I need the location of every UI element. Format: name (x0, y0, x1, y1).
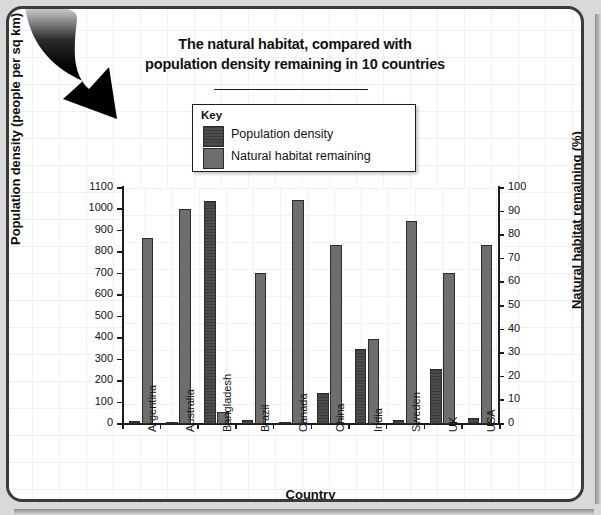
y-axis-left-tick-label: 1000 (73, 201, 113, 213)
x-axis-tick (235, 424, 237, 429)
chart-card: The natural habitat, compared with popul… (6, 6, 584, 502)
x-axis-category-label: Australia (184, 389, 196, 432)
y-axis-left-tick-label: 200 (73, 373, 113, 385)
x-axis-title: Country (122, 487, 499, 502)
x-axis-tick (273, 424, 275, 429)
bar-population-density (317, 393, 329, 424)
y-axis-left-tick (117, 380, 122, 382)
y-axis-left-tick (117, 359, 122, 361)
curved-down-arrow-icon (6, 6, 145, 119)
legend-label-natural-habitat: Natural habitat remaining (231, 149, 371, 163)
x-axis-tick (348, 424, 350, 429)
y-axis-left-tick (117, 251, 122, 253)
x-axis-tick (160, 424, 162, 429)
y-axis-right-tick-label: 90 (508, 204, 548, 216)
x-axis-category-label: Bangladesh (221, 374, 233, 432)
x-axis-tick (122, 424, 124, 429)
x-axis-tick (197, 424, 199, 429)
y-axis-right-tick-label: 70 (508, 251, 548, 263)
title-underline (214, 89, 368, 90)
bar-population-density (468, 418, 480, 424)
y-axis-left-tick-label: 900 (73, 223, 113, 235)
y-axis-left-tick (117, 316, 122, 318)
y-axis-left-tick-label: 700 (73, 266, 113, 278)
y-axis-left-tick (117, 294, 122, 296)
y-axis-left-tick-label: 300 (73, 352, 113, 364)
x-axis-category-label: India (372, 408, 384, 432)
y-axis-left-tick-label: 500 (73, 309, 113, 321)
bar-natural-habitat-remaining (330, 245, 342, 424)
y-axis-right-tick (499, 258, 504, 260)
legend-label-population-density: Population density (231, 127, 333, 141)
bar-population-density (204, 201, 216, 424)
bar-population-density (279, 422, 291, 425)
y-axis-right-tick (499, 305, 504, 307)
x-axis-category-label: UK (447, 417, 459, 432)
x-axis-tick (386, 424, 388, 429)
x-axis-category-label: Canada (297, 393, 309, 432)
legend-swatch-natural-habitat (203, 148, 224, 169)
bar-natural-habitat-remaining (292, 200, 304, 424)
y-axis-left-tick (117, 402, 122, 404)
y-axis-right-tick (499, 352, 504, 354)
y-axis-left-tick (117, 187, 122, 189)
y-axis-right-tick-label: 10 (508, 392, 548, 404)
y-axis-left-tick-label: 400 (73, 330, 113, 342)
y-axis-right-tick-label: 0 (508, 416, 548, 428)
y-axis-right-tick (499, 234, 504, 236)
bar-population-density (430, 369, 442, 424)
y-axis-left-tick (117, 273, 122, 275)
y-axis-right-tick (499, 187, 504, 189)
bar-population-density (242, 420, 254, 424)
y-axis-right-tick-label: 60 (508, 274, 548, 286)
legend-title: Key (201, 109, 222, 121)
y-axis-left-tick-label: 100 (73, 395, 113, 407)
y-axis-right-tick (499, 376, 504, 378)
bar-population-density (129, 421, 141, 424)
x-axis-category-label: China (334, 403, 346, 432)
y-axis-left-tick-label: 600 (73, 287, 113, 299)
y-axis-left-tick-label: 1100 (73, 180, 113, 192)
y-axis-right-tick (499, 281, 504, 283)
plot-area: 010020030040050060070080090010001100 010… (122, 187, 499, 424)
card-shadow-right (595, 14, 601, 504)
bar-natural-habitat-remaining (481, 245, 493, 424)
y-axis-right-tick-label: 50 (508, 298, 548, 310)
y-axis-left-tick (117, 337, 122, 339)
bar-population-density (355, 349, 367, 424)
y-axis-right-tick-label: 30 (508, 345, 548, 357)
y-axis-right-tick (499, 211, 504, 213)
x-axis-category-label: Argentina (146, 385, 158, 432)
x-axis-tick (311, 424, 313, 429)
y-axis-left-tick-label: 0 (73, 416, 113, 428)
x-axis-tick (424, 424, 426, 429)
y-axis-right-tick-label: 80 (508, 227, 548, 239)
x-axis-tick (499, 424, 501, 429)
y-axis-left-tick-label: 800 (73, 244, 113, 256)
y-axis-right-title: Natural habitat remaining (%) (569, 131, 584, 309)
y-axis-right-tick-label: 40 (508, 322, 548, 334)
bar-population-density (166, 422, 178, 425)
y-axis-right-tick (499, 399, 504, 401)
y-axis-left-line (122, 186, 124, 424)
x-axis-category-label: USA (485, 409, 497, 432)
x-axis-tick (461, 424, 463, 429)
bar-natural-habitat-remaining (255, 273, 267, 424)
x-axis-category-label: Brazil (259, 404, 271, 432)
legend-swatch-population-density (203, 126, 224, 147)
y-axis-right-tick-label: 100 (508, 180, 548, 192)
bar-natural-habitat-remaining (443, 273, 455, 424)
bar-population-density (393, 420, 405, 424)
y-axis-right-tick (499, 329, 504, 331)
y-axis-left-tick (117, 230, 122, 232)
card-shadow-bottom (14, 509, 594, 515)
legend-box: Key Population density Natural habitat r… (192, 104, 416, 172)
x-axis-category-label: Sweden (410, 392, 422, 432)
y-axis-left-tick (117, 208, 122, 210)
y-axis-right-tick-label: 20 (508, 369, 548, 381)
